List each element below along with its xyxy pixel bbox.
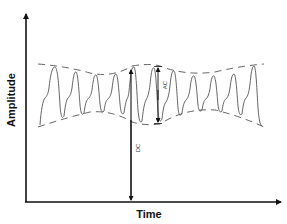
lower-envelope (38, 110, 264, 127)
amplitude-time-diagram (0, 0, 287, 224)
ac-label: AC (162, 81, 168, 89)
y-axis-label: Amplitude (5, 73, 17, 127)
dc-label: DC (135, 144, 141, 153)
x-axis-label: Time (136, 208, 161, 220)
waveform (40, 66, 262, 126)
